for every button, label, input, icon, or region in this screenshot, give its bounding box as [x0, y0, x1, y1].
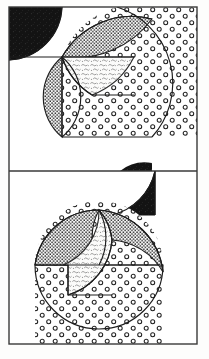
upper-panel — [9, 1, 197, 171]
caption — [9, 347, 199, 357]
lower-panel — [9, 171, 197, 344]
figure-root — [0, 0, 209, 359]
pattern-figure — [0, 0, 209, 359]
